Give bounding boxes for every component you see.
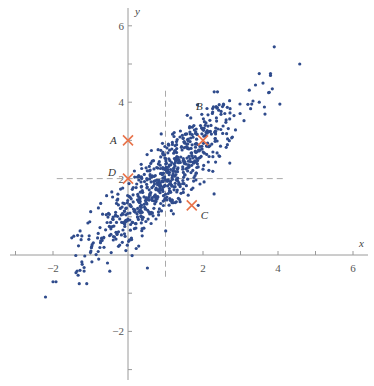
data-point — [186, 147, 189, 150]
data-point — [226, 106, 229, 109]
data-point — [171, 141, 174, 144]
data-point — [173, 157, 176, 160]
data-point — [202, 117, 205, 120]
data-point — [140, 163, 143, 166]
data-point — [143, 173, 146, 176]
data-point — [193, 128, 196, 131]
data-point — [185, 163, 188, 166]
data-point — [216, 127, 219, 130]
data-point — [199, 148, 202, 151]
x-tick-label: 2 — [200, 262, 206, 274]
data-point — [83, 254, 86, 257]
data-point — [97, 206, 100, 209]
data-point — [219, 113, 222, 116]
data-point — [164, 163, 167, 166]
data-point — [229, 107, 232, 110]
data-point — [213, 192, 216, 195]
data-point — [156, 196, 159, 199]
data-point — [250, 103, 253, 106]
data-point — [109, 233, 112, 236]
data-point — [232, 114, 235, 117]
data-point — [219, 128, 222, 131]
data-point — [178, 135, 181, 138]
data-point — [170, 147, 173, 150]
data-point — [168, 204, 171, 207]
data-point — [182, 191, 185, 194]
data-point — [174, 173, 177, 176]
data-point — [157, 179, 160, 182]
data-point — [239, 112, 242, 115]
data-point — [157, 213, 160, 216]
data-point — [226, 143, 229, 146]
data-point — [196, 162, 199, 165]
data-point — [88, 220, 91, 223]
data-point — [189, 157, 192, 160]
data-point — [106, 261, 109, 264]
data-point — [261, 82, 264, 85]
data-point — [146, 266, 149, 269]
data-point — [158, 189, 161, 192]
data-point — [144, 220, 147, 223]
data-point — [145, 183, 148, 186]
data-point — [194, 150, 197, 153]
data-point — [278, 103, 281, 106]
data-point — [148, 165, 151, 168]
data-point — [97, 250, 100, 253]
data-point — [186, 169, 189, 172]
data-point — [108, 225, 111, 228]
data-point — [191, 186, 194, 189]
data-point — [298, 62, 301, 65]
data-point — [145, 186, 148, 189]
data-point — [159, 167, 162, 170]
data-point — [78, 282, 81, 285]
data-point — [165, 146, 168, 149]
data-point — [145, 166, 148, 169]
data-point — [202, 164, 205, 167]
data-point — [137, 245, 140, 248]
data-point — [159, 155, 162, 158]
data-point — [176, 156, 179, 159]
data-point — [188, 131, 191, 134]
data-point — [192, 124, 195, 127]
data-point — [149, 162, 152, 165]
data-point — [74, 271, 77, 274]
data-point — [167, 144, 170, 147]
data-point — [164, 193, 167, 196]
data-point — [121, 201, 124, 204]
data-point — [118, 217, 121, 220]
data-point — [165, 166, 168, 169]
data-point — [206, 113, 209, 116]
data-point — [206, 125, 209, 128]
data-point — [98, 246, 101, 249]
data-point — [109, 221, 112, 224]
data-point — [152, 167, 155, 170]
data-point — [214, 137, 217, 140]
data-point — [98, 226, 101, 229]
data-point — [228, 117, 231, 120]
data-point — [126, 244, 129, 247]
data-point — [208, 119, 211, 122]
data-point — [131, 221, 134, 224]
data-point — [146, 153, 149, 156]
data-point — [147, 218, 150, 221]
data-point — [118, 243, 121, 246]
data-point — [44, 295, 47, 298]
data-point — [133, 169, 136, 172]
data-point — [158, 160, 161, 163]
data-point — [202, 151, 205, 154]
data-point — [210, 143, 213, 146]
data-point — [111, 195, 114, 198]
data-point — [89, 250, 92, 253]
data-point — [78, 269, 81, 272]
data-point — [271, 87, 274, 90]
data-point — [83, 269, 86, 272]
data-point — [205, 131, 208, 134]
data-point — [194, 146, 197, 149]
scatter-plot: −2246−2246xy ABCD — [0, 0, 374, 386]
data-point — [191, 133, 194, 136]
data-point — [191, 156, 194, 159]
data-point — [191, 143, 194, 146]
data-point — [182, 159, 185, 162]
x-axis-label: x — [358, 237, 364, 249]
data-point — [88, 234, 91, 237]
